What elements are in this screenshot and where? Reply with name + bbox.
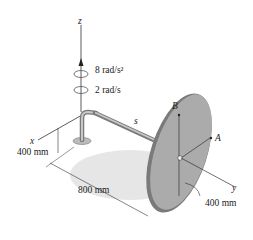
x-axis-label: x <box>30 137 34 147</box>
z-axis-label: z <box>78 17 82 27</box>
point-a-label: A <box>215 134 221 144</box>
height-dimension-label: 400 mm <box>17 148 48 158</box>
point-b-label: B <box>172 102 178 112</box>
radius-dimension-label: 400 mm <box>205 199 236 209</box>
length-dimension-label: 800 mm <box>78 186 109 196</box>
rod-label: s <box>134 117 138 127</box>
point-a-marker <box>210 137 212 139</box>
point-b-marker <box>178 114 180 116</box>
z-axis-arrow-icon <box>79 58 84 66</box>
angular-velocity-label: 2 rad/s <box>95 86 121 96</box>
rod-vertical <box>82 112 96 140</box>
y-axis-label: y <box>232 184 236 194</box>
x-axis-line <box>38 115 82 140</box>
angular-acceleration-label: 8 rad/s² <box>95 66 123 76</box>
